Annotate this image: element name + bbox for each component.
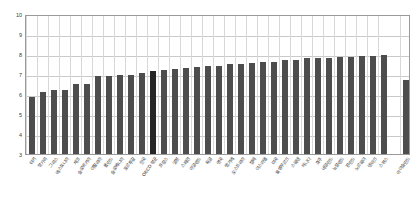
bar [117,75,123,154]
bar [106,76,112,154]
x-axis-tick-label: 스웨덴 [290,156,301,169]
y-axis-tick: 6 [19,92,22,98]
bars-layer [26,16,409,154]
x-axis-tick-label: 독일 [204,156,213,166]
y-axis: 109876543 [0,0,25,160]
x-axis-tick-label: 헝가리 [37,156,48,169]
bar [304,58,310,154]
bar [249,63,255,154]
bar [260,62,266,154]
bar [381,55,387,154]
y-axis-tick: 5 [19,112,22,118]
x-axis-tick-label: 캐나다 [301,156,312,169]
y-axis-tick: 9 [19,32,22,38]
bar [271,62,277,154]
x-axis-tick-label: 아이슬란드 [395,156,411,175]
bar [161,70,167,154]
bar [150,71,156,154]
x-axis-tick-label: 호주 [314,156,323,166]
x-axis-tick-label: 터키 [28,156,37,166]
x-axis-tick-label: 체코 [72,156,81,166]
bar [62,90,68,154]
plot-area [25,15,410,155]
x-axis-tick-label: 덴마크 [367,156,378,169]
bar [359,56,365,154]
x-axis-tick-label: 한국 [138,156,147,166]
bar [205,66,211,154]
y-axis-tick: 4 [19,132,22,138]
bar [348,57,354,154]
bar [84,84,90,154]
bar [238,64,244,154]
bar [194,67,200,154]
y-axis-tick: 7 [19,72,22,78]
x-axis-tick-label: 프랑스 [158,156,169,169]
y-axis-tick: 3 [19,152,22,158]
x-axis-tick-label: 칠레 [248,156,257,166]
y-axis-tick: 8 [19,52,22,58]
bar [29,97,35,154]
bar [337,57,343,154]
bar [128,75,134,154]
x-axis-tick-label: 영국 [215,156,224,166]
bar [95,76,101,154]
x-axis-tick-label: 스위스 [378,156,389,169]
bar-chart: 109876543 터키헝가리그리스에스토니아체코슬로바키아이탈리아폴란드슬로베… [0,0,415,222]
bar [403,80,409,154]
bar [227,64,233,154]
x-axis-tick-label: 미국 [270,156,279,166]
bar [315,58,321,154]
bar [326,58,332,154]
bar [293,60,299,154]
x-axis-tick-label: 일본 [171,156,180,166]
y-axis-tick: 10 [16,12,22,18]
bar [139,73,145,154]
bar [40,92,46,154]
x-axis-labels: 터키헝가리그리스에스토니아체코슬로바키아이탈리아폴란드슬로베니아포르투갈한국OE… [25,156,410,220]
bar [183,68,189,154]
bar [51,90,57,154]
bar [73,84,79,154]
bar [216,66,222,154]
bar [370,56,376,154]
bar [282,60,288,154]
bar [172,69,178,154]
